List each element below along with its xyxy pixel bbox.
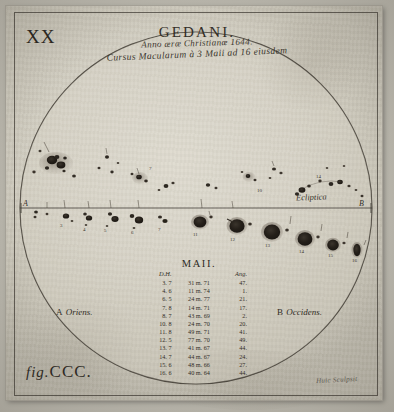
spot-label-lower: 13 (265, 243, 271, 248)
table-row: 12. 577 m. 7049. (150, 336, 248, 344)
table-cell: 24 m. 70 (173, 320, 226, 328)
table-row: 15. 648 m. 6627. (150, 361, 248, 369)
table-column-header: Ang. (225, 270, 248, 279)
spot-label-lower: 11 (193, 232, 198, 237)
table-cell: 16. 6 (150, 369, 173, 377)
table-cell: 47. (225, 279, 248, 287)
table-cell: 17. (225, 304, 248, 312)
table-cell: 2. (225, 312, 248, 320)
table-cell: 11 m. 74 (173, 287, 226, 295)
table-row: 13. 741 m. 6744. (150, 344, 248, 352)
plate-engraving: 7 10 14 (0, 0, 394, 412)
observation-table-grid: D.H.Ang.3. 731 m. 7147.4. 611 m. 741.6. … (150, 270, 248, 377)
spot-label-lower: 12 (230, 237, 236, 242)
spot-label-upper: 10 (257, 188, 263, 193)
table-cell: 14. 7 (150, 353, 173, 361)
ecliptic-label: Ecliptica (296, 191, 327, 202)
table-row: 3. 731 m. 7147. (150, 279, 248, 287)
orientation-west-word: Occidens. (286, 307, 322, 317)
table-body: D.H.Ang.3. 731 m. 7147.4. 611 m. 741.6. … (150, 270, 248, 377)
table-column-header: D.H. (150, 270, 173, 279)
table-cell: 21. (225, 295, 248, 303)
table-row: 6. 524 m. 7721. (150, 295, 248, 303)
table-row: 10. 824 m. 7020. (150, 320, 248, 328)
table-cell: 15. 6 (150, 361, 173, 369)
spot-label-lower: 15 (328, 253, 334, 258)
table-cell: 41 m. 67 (173, 344, 226, 352)
table-cell: 6. 5 (150, 295, 173, 303)
figure-number-prefix: fig. (26, 364, 50, 380)
table-cell: 48 m. 66 (173, 361, 226, 369)
table-cell: 4. 6 (150, 287, 173, 295)
table-cell: 44. (225, 344, 248, 352)
table-cell: 44. (225, 369, 248, 377)
table-row: 16. 640 m. 6444. (150, 369, 248, 377)
table-month-heading: MAII. (150, 258, 248, 269)
orientation-east-letter: A (56, 307, 64, 317)
spot-label-upper: 14 (316, 174, 322, 179)
table-cell: 14 m. 71 (173, 304, 226, 312)
orientation-west-letter: B (277, 307, 284, 317)
table-cell: 77 m. 70 (173, 336, 226, 344)
table-cell: 49. (225, 336, 248, 344)
table-column-header (173, 270, 226, 279)
orientation-east-word: Oriens. (66, 307, 93, 317)
table-cell: 12. 5 (150, 336, 173, 344)
table-cell: 7. 8 (150, 304, 173, 312)
table-cell: 24 m. 77 (173, 295, 226, 303)
table-cell: 24. (225, 353, 248, 361)
table-cell: 8. 7 (150, 312, 173, 320)
figure-number-value: CCC. (50, 362, 92, 381)
spot-label-lower: 14 (299, 249, 305, 254)
observation-table: MAII. D.H.Ang.3. 731 m. 7147.4. 611 m. 7… (150, 258, 248, 377)
table-cell: 11. 8 (150, 328, 173, 336)
table-cell: 44 m. 67 (173, 353, 226, 361)
spot-label-lower: 16 (352, 258, 358, 263)
table-cell: 40 m. 64 (173, 369, 226, 377)
table-row: 7. 814 m. 7117. (150, 304, 248, 312)
table-cell: 43 m. 69 (173, 312, 226, 320)
orientation-label-east: A Oriens. (56, 307, 93, 317)
table-cell: 10. 8 (150, 320, 173, 328)
table-row: 8. 743 m. 692. (150, 312, 248, 320)
table-cell: 41. (225, 328, 248, 336)
table-row: 11. 849 m. 7141. (150, 328, 248, 336)
ecliptic-endpoint-left: A (23, 199, 28, 208)
figure-number: fig.CCC. (26, 362, 92, 382)
table-row: 4. 611 m. 741. (150, 287, 248, 295)
table-header-row: D.H.Ang. (150, 270, 248, 279)
table-cell: 3. 7 (150, 279, 173, 287)
table-cell: 49 m. 71 (173, 328, 226, 336)
table-cell: 1. (225, 287, 248, 295)
table-cell: 13. 7 (150, 344, 173, 352)
table-row: 14. 744 m. 6724. (150, 353, 248, 361)
table-cell: 31 m. 71 (173, 279, 226, 287)
orientation-label-west: B Occidens. (277, 307, 322, 317)
table-cell: 20. (225, 320, 248, 328)
table-cell: 27. (225, 361, 248, 369)
ecliptic-endpoint-right: B (359, 199, 364, 208)
